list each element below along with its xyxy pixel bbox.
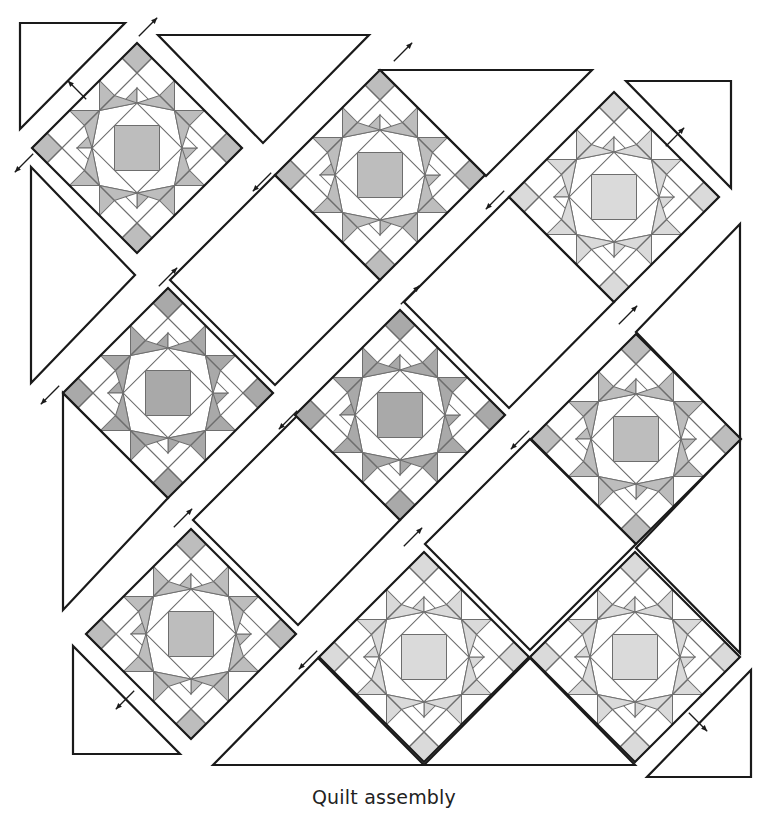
- arrow-1-icon: [139, 18, 157, 36]
- arrow-8-icon: [41, 386, 59, 404]
- quilt-blocks: [32, 43, 741, 762]
- arrow-14-icon: [619, 306, 637, 324]
- figure-caption: Quilt assembly: [0, 786, 768, 808]
- arrow-6-icon: [394, 43, 412, 61]
- quilt-assembly-diagram: [0, 0, 768, 824]
- arrow-15-icon: [404, 528, 422, 546]
- arrow-2-icon: [68, 81, 86, 99]
- arrow-12-icon: [174, 509, 192, 527]
